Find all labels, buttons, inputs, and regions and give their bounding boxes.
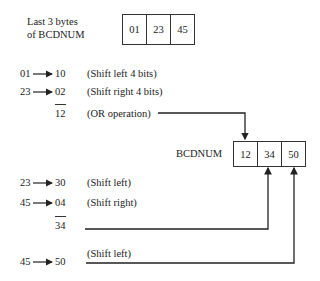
step5-to: 04 (55, 197, 66, 209)
step4-op: (Shift left) (87, 177, 131, 189)
sum-underline-2 (55, 216, 66, 217)
step1-from: 01 (20, 68, 31, 80)
step7-from: 45 (20, 256, 31, 268)
right-arrow-icon (33, 74, 52, 262)
step5-from: 45 (20, 197, 31, 209)
result-label: BCDNUM (176, 148, 222, 160)
step3-result: 12 (55, 108, 66, 120)
step7-to: 50 (55, 256, 66, 268)
step3-op: (OR operation) (87, 108, 151, 120)
step6-result: 34 (55, 220, 66, 232)
step4-from: 23 (20, 177, 31, 189)
step7-op: (Shift left) (87, 248, 131, 260)
result-byte-1: 34 (257, 142, 281, 166)
or-connector-arrow (158, 113, 245, 139)
step2-from: 23 (20, 86, 31, 98)
result-byte-0: 12 (234, 142, 257, 166)
result-byte-2: 50 (281, 142, 305, 166)
sum-underline (55, 104, 66, 105)
result-bytes-box: 12 34 50 (233, 141, 306, 167)
step1-op: (Shift left 4 bits) (87, 68, 157, 80)
step2-to: 02 (55, 86, 66, 98)
step4-to: 30 (55, 177, 66, 189)
step1-to: 10 (55, 68, 66, 80)
step2-op: (Shift right 4 bits) (87, 86, 163, 98)
step5-op: (Shift right) (87, 197, 137, 209)
